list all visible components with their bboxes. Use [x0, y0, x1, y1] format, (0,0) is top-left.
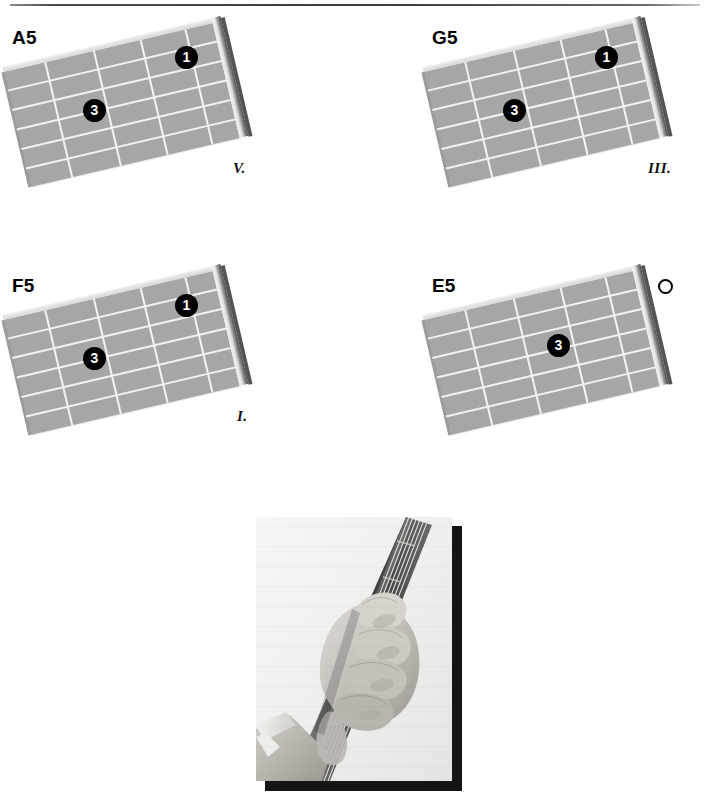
- fretboard-e5: [423, 271, 659, 435]
- finger-marker-1: 1: [175, 294, 198, 317]
- fretboard-a5: [3, 23, 239, 187]
- top-divider-rule: [10, 4, 700, 6]
- fret-position-label-g5: III.: [648, 160, 671, 177]
- fretboard-f5: [3, 271, 239, 435]
- finger-marker-3: 3: [503, 99, 526, 122]
- hand-fretting-guitar-neck-photo: [256, 517, 452, 781]
- chord-diagram-f5: F5 1 3 I.: [0, 258, 280, 478]
- finger-marker-3: 3: [83, 99, 106, 122]
- fret-position-label-f5: I.: [237, 408, 248, 425]
- fretboard-g5: [423, 23, 659, 187]
- finger-marker-1: 1: [175, 46, 198, 69]
- fret-position-label-a5: V.: [233, 160, 246, 177]
- chord-name-g5: G5: [432, 28, 458, 47]
- finger-marker-1: 1: [595, 46, 618, 69]
- chord-name-e5: E5: [432, 276, 456, 295]
- photo-drop-shadow-bottom: [265, 781, 462, 791]
- chord-name-f5: F5: [12, 276, 35, 295]
- photo-drop-shadow-right: [452, 526, 462, 790]
- finger-marker-3: 3: [83, 347, 106, 370]
- open-string-marker-icon: [658, 279, 673, 294]
- finger-marker-3: 3: [547, 334, 570, 357]
- chord-name-a5: A5: [12, 28, 37, 47]
- hand-position-photo-block: [256, 517, 452, 781]
- chord-diagram-a5: A5 1 3 V.: [0, 10, 280, 230]
- chord-diagram-g5: G5 1 3 III.: [420, 10, 700, 230]
- chord-diagram-e5: E5 3: [420, 258, 700, 478]
